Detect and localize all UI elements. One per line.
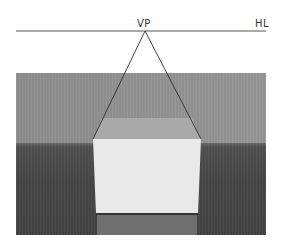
box-shadow <box>96 213 198 215</box>
box-reflection <box>97 215 197 235</box>
diagram-overlay <box>0 0 283 252</box>
box-front-face <box>93 139 201 214</box>
box-top-face <box>93 118 201 139</box>
perspective-diagram: VP HL <box>0 0 283 252</box>
hl-label: HL <box>255 19 269 29</box>
vp-label: VP <box>137 19 151 29</box>
